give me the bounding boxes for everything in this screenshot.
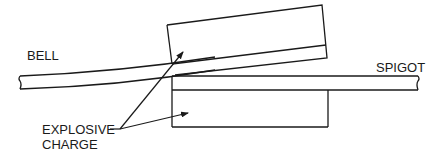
label-explosive: EXPLOSIVE <box>42 122 115 137</box>
spigot-pipe <box>0 76 419 90</box>
label-bell: BELL <box>27 48 59 63</box>
pipe-joint-diagram: BELL SPIGOT EXPLOSIVE CHARGE <box>0 0 430 158</box>
label-spigot: SPIGOT <box>376 60 425 75</box>
spigot-break-mark <box>417 76 419 90</box>
label-charge: CHARGE <box>42 137 98 152</box>
bell-break-mark <box>19 76 21 89</box>
lower-explosive-charge <box>172 90 328 127</box>
upper-explosive-charge <box>167 5 327 75</box>
